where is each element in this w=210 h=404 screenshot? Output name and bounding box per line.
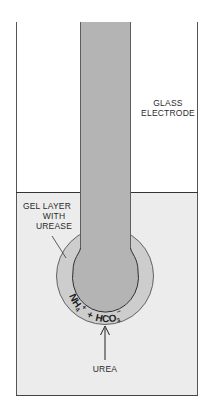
hco3-label: HCO [94, 312, 117, 325]
gel-layer-label: GEL LAYER WITH UREASE [18, 201, 76, 231]
label-line: GEL LAYER [18, 201, 76, 211]
label-line: ELECTRODE [140, 108, 196, 118]
glass-electrode-label: GLASS ELECTRODE [140, 98, 196, 118]
label-line: GLASS [140, 98, 196, 108]
glass-electrode [73, 22, 139, 312]
urea-electrode-diagram: NH4++HCO3− GLASS ELECTRODE GEL LAYER WIT… [0, 0, 210, 404]
label-line: WITH [18, 211, 76, 221]
urea-label: UREA [85, 364, 125, 374]
label-line: UREASE [18, 221, 76, 231]
